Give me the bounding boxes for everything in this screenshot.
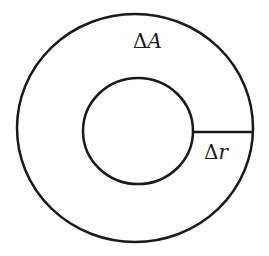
delta-r-label: Δr [204, 140, 228, 164]
annulus-diagram: ΔA Δr [0, 0, 269, 256]
inner-circle [83, 78, 193, 184]
delta-a-label: ΔA [133, 29, 162, 53]
